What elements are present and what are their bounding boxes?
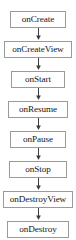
flow-node-ondestroyview[interactable]: onDestroyView bbox=[3, 191, 73, 208]
arrow-down-icon-3 bbox=[34, 88, 43, 101]
flow-node-oncreateview[interactable]: onCreateView bbox=[4, 41, 72, 58]
arrow-down-icon-6 bbox=[34, 178, 43, 191]
lifecycle-flowchart: onCreate onCreateView onStart onResume bbox=[0, 0, 76, 240]
arrow-down-icon-2 bbox=[34, 58, 43, 71]
arrow-down-icon-5 bbox=[34, 148, 43, 161]
flow-node-oncreate[interactable]: onCreate bbox=[10, 11, 66, 28]
arrow-down-icon-1 bbox=[34, 28, 43, 41]
flow-node-ondestroy[interactable]: onDestroy bbox=[7, 221, 69, 238]
arrow-down-icon-7 bbox=[34, 208, 43, 221]
flow-node-onstart[interactable]: onStart bbox=[11, 71, 65, 88]
flowchart-node-column: onCreate onCreateView onStart onResume bbox=[0, 11, 76, 238]
flow-node-onresume[interactable]: onResume bbox=[8, 101, 68, 118]
arrow-down-icon-4 bbox=[34, 118, 43, 131]
flow-node-onstop[interactable]: onStop bbox=[9, 161, 67, 178]
flow-node-onpause[interactable]: onPause bbox=[10, 131, 66, 148]
